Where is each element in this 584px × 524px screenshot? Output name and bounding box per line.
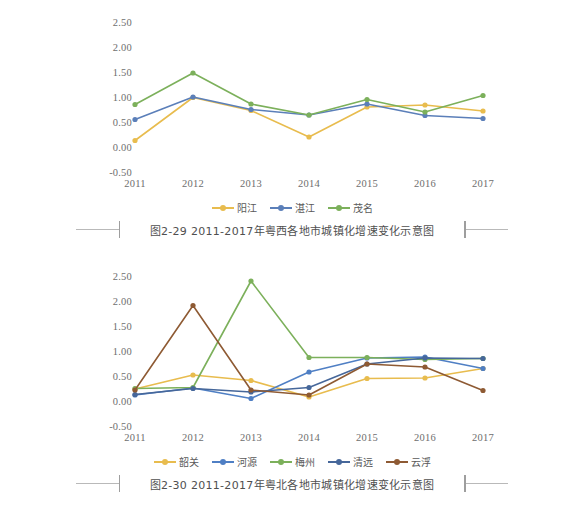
y-axis-tick-label: -0.50 <box>109 421 132 432</box>
data-point <box>364 97 369 102</box>
x-axis-tick-label: 2015 <box>356 178 378 189</box>
data-point <box>480 356 485 361</box>
x-axis-tick-label: 2011 <box>124 432 145 443</box>
y-axis-tick-label: 1.00 <box>113 92 132 103</box>
chart-legend: 韶关河源梅州清远云浮 <box>0 454 584 469</box>
x-axis-labels: 2011201220132014201520162017 <box>135 432 483 448</box>
y-axis-tick-label: 0.00 <box>113 396 132 407</box>
figure-caption: 图2-30 2011-2017年粤北各地市城镇化增速变化示意图 <box>0 476 584 492</box>
data-point <box>422 109 427 114</box>
y-axis-labels: 2.502.001.501.000.500.00-0.50 <box>88 22 132 172</box>
data-point <box>306 369 311 374</box>
series-line <box>135 73 483 115</box>
data-point <box>306 112 311 117</box>
line-chart-svg <box>135 22 483 172</box>
figure-2-30: 2.502.001.501.000.500.00-0.50 2011201220… <box>0 262 584 474</box>
x-axis-tick-label: 2012 <box>182 178 204 189</box>
chart-legend: 阳江湛江茂名 <box>0 200 584 215</box>
data-point <box>422 375 427 380</box>
document-page: 2.502.001.501.000.500.00-0.50 2011201220… <box>0 0 584 524</box>
data-point <box>248 387 253 392</box>
y-axis-tick-label: 0.50 <box>113 117 132 128</box>
legend-item-韶关[interactable]: 韶关 <box>154 454 199 469</box>
data-point <box>480 388 485 393</box>
series-line <box>135 98 483 141</box>
legend-label: 茂名 <box>353 200 373 215</box>
legend-item-清远[interactable]: 清远 <box>328 454 373 469</box>
x-axis-tick-label: 2014 <box>298 178 320 189</box>
legend-label: 湛江 <box>295 200 315 215</box>
data-point <box>306 134 311 139</box>
legend-label: 韶关 <box>179 454 199 469</box>
data-point <box>480 108 485 113</box>
x-axis-labels: 2011201220132014201520162017 <box>135 178 483 194</box>
legend-item-湛江[interactable]: 湛江 <box>270 200 315 215</box>
y-axis-tick-label: -0.50 <box>109 167 132 178</box>
data-point <box>190 70 195 75</box>
legend-label: 云浮 <box>411 454 431 469</box>
legend-marker-icon <box>270 457 292 466</box>
data-point <box>190 372 195 377</box>
y-axis-tick-label: 2.50 <box>113 17 132 28</box>
data-point <box>132 138 137 143</box>
series-云浮 <box>132 303 485 398</box>
legend-marker-icon <box>328 457 350 466</box>
data-point <box>190 303 195 308</box>
y-axis-tick-label: 2.00 <box>113 42 132 53</box>
data-point <box>306 355 311 360</box>
data-point <box>132 392 137 397</box>
legend-item-云浮[interactable]: 云浮 <box>386 454 431 469</box>
x-axis-tick-label: 2015 <box>356 432 378 443</box>
legend-marker-icon <box>328 203 350 212</box>
data-point <box>422 102 427 107</box>
x-axis-tick-label: 2016 <box>414 178 436 189</box>
data-point <box>248 396 253 401</box>
legend-item-茂名[interactable]: 茂名 <box>328 200 373 215</box>
data-point <box>132 117 137 122</box>
data-point <box>306 392 311 397</box>
legend-item-梅州[interactable]: 梅州 <box>270 454 315 469</box>
legend-item-河源[interactable]: 河源 <box>212 454 257 469</box>
data-point <box>480 116 485 121</box>
y-axis-tick-label: 2.50 <box>113 271 132 282</box>
y-axis-tick-label: 1.50 <box>113 321 132 332</box>
data-point <box>480 93 485 98</box>
x-axis-tick-label: 2011 <box>124 178 145 189</box>
series-阳江 <box>132 95 485 143</box>
legend-label: 阳江 <box>237 200 257 215</box>
plot-area-2-30 <box>135 276 483 426</box>
data-point <box>190 386 195 391</box>
y-axis-tick-label: 0.50 <box>113 371 132 382</box>
series-茂名 <box>132 70 485 117</box>
data-point <box>364 361 369 366</box>
figure-2-29: 2.502.001.501.000.500.00-0.50 2011201220… <box>0 8 584 220</box>
data-point <box>190 94 195 99</box>
plot-area-2-29 <box>135 22 483 172</box>
data-point <box>306 385 311 390</box>
data-point <box>364 101 369 106</box>
data-point <box>132 387 137 392</box>
data-point <box>248 101 253 106</box>
data-point <box>422 364 427 369</box>
legend-item-阳江[interactable]: 阳江 <box>212 200 257 215</box>
y-axis-tick-label: 2.00 <box>113 296 132 307</box>
legend-marker-icon <box>386 457 408 466</box>
x-axis-tick-label: 2016 <box>414 432 436 443</box>
legend-label: 河源 <box>237 454 257 469</box>
y-axis-tick-label: 1.50 <box>113 67 132 78</box>
data-point <box>248 278 253 283</box>
x-axis-tick-label: 2013 <box>240 432 262 443</box>
chart-2-30: 2.502.001.501.000.500.00-0.50 2011201220… <box>0 262 584 474</box>
x-axis-tick-label: 2014 <box>298 432 320 443</box>
x-axis-tick-label: 2013 <box>240 178 262 189</box>
data-point <box>480 366 485 371</box>
y-axis-tick-label: 1.00 <box>113 346 132 357</box>
data-point <box>364 376 369 381</box>
x-axis-tick-label: 2012 <box>182 432 204 443</box>
legend-label: 清远 <box>353 454 373 469</box>
line-chart-svg <box>135 276 483 426</box>
chart-2-29: 2.502.001.501.000.500.00-0.50 2011201220… <box>0 8 584 220</box>
series-line <box>135 306 483 396</box>
data-point <box>248 378 253 383</box>
data-point <box>248 107 253 112</box>
